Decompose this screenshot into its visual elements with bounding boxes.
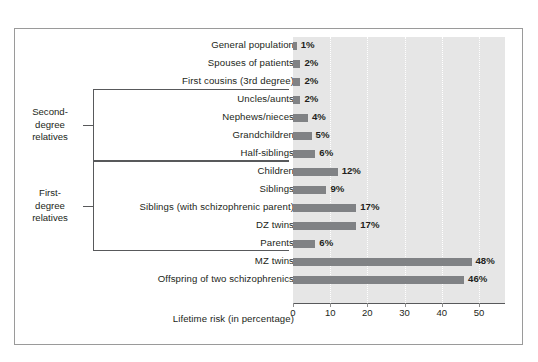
bracket-tick [83,206,93,207]
x-axis-title-row: Lifetime risk (in percentage) [15,311,522,329]
category-label: First cousins (3rd degree) [182,75,294,86]
bar [293,186,326,194]
bar-value-label: 17% [360,201,379,212]
bar [293,258,472,266]
bar-row: MZ twins48% [15,253,522,271]
bar-value-label: 2% [304,57,318,68]
bar [293,240,315,248]
bracket-tick [83,125,93,126]
bar-value-label: 46% [468,273,487,284]
bar-row: Spouses of patients2% [15,55,522,73]
bar [293,78,300,86]
x-axis-title: Lifetime risk (in percentage) [173,313,294,324]
bar-value-label: 4% [312,111,326,122]
group-bracket [93,161,289,251]
category-label: Spouses of patients [208,57,294,68]
category-label: General population [211,39,294,50]
bar-value-label: 2% [304,93,318,104]
bar-value-label: 1% [301,39,315,50]
bracket-label: First-degreerelatives [19,187,81,225]
bar-value-label: 6% [319,237,333,248]
bar-value-label: 5% [316,129,330,140]
bar [293,204,356,212]
bar [293,276,464,284]
bar [293,222,356,230]
bar [293,168,338,176]
bracket-label: Second-degreerelatives [19,106,81,144]
category-label: Offspring of two schizophrenics [158,273,294,284]
bar-value-label: 2% [304,75,318,86]
bar [293,132,312,140]
group-bracket [93,89,289,161]
chart-figure: 01020304050 General population1%Spouses … [14,28,523,345]
bar-row: General population1% [15,37,522,55]
bar [293,150,315,158]
bar [293,42,297,50]
bar-value-label: 9% [330,183,344,194]
bracket-label-line: degree [19,200,81,213]
category-label: MZ twins [255,255,294,266]
x-axis-line [293,303,505,304]
bar-value-label: 12% [342,165,361,176]
bar [293,60,300,68]
bar-value-label: 6% [319,147,333,158]
bracket-label-line: Second- [19,106,81,119]
bar [293,114,308,122]
bar [293,96,300,104]
bracket-label-line: relatives [19,131,81,144]
bar-value-label: 48% [476,255,495,266]
bar-value-label: 17% [360,219,379,230]
bracket-label-line: First- [19,187,81,200]
bar-row: Offspring of two schizophrenics46% [15,271,522,289]
bracket-label-line: relatives [19,212,81,225]
bracket-label-line: degree [19,119,81,132]
